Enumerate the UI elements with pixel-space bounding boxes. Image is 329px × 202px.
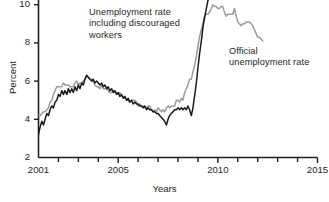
y-tick-label-4: 4 bbox=[8, 113, 30, 124]
x-tick-marks bbox=[58, 158, 317, 164]
u6-label-line: including discouraged bbox=[89, 18, 180, 29]
x-tick-label-2001: 2001 bbox=[17, 164, 61, 175]
y-axis-title: Percent bbox=[7, 50, 18, 106]
x-tick-label-2010: 2010 bbox=[196, 164, 240, 175]
x-tick-label-2015: 2015 bbox=[296, 164, 329, 175]
u3-label-line: unemployment rate bbox=[229, 57, 309, 68]
annotation-u3-label: Officialunemployment rate bbox=[229, 46, 309, 69]
u3-label-line: Official bbox=[229, 46, 309, 57]
u6-label-line: workers bbox=[89, 30, 180, 41]
x-axis-title: Years bbox=[0, 183, 329, 194]
y-tick-label-10: 10 bbox=[8, 0, 30, 9]
annotation-u6-label: Unemployment rateincluding discouragedwo… bbox=[89, 7, 180, 41]
x-tick-label-2005: 2005 bbox=[96, 164, 140, 175]
u6-label-line: Unemployment rate bbox=[89, 7, 180, 18]
unemployment-rate-chart: 246810 2001200520102015 Percent Years Un… bbox=[0, 0, 329, 202]
y-tick-label-8: 8 bbox=[8, 36, 30, 47]
y-tick-label-2: 2 bbox=[8, 151, 30, 162]
